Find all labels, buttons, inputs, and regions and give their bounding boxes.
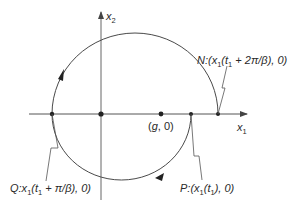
upper-trajectory-arc (52, 33, 218, 114)
phase-plane-diagram: x2 x1 N:(x1(t1 + 2π/β), 0) (g, 0) Q:x1(t… (0, 0, 301, 213)
label-P: P:(x1(t1), 0) (180, 182, 234, 199)
point-g (159, 112, 164, 117)
label-g: (g, 0) (148, 120, 174, 132)
arrow-left-icon (155, 173, 164, 181)
label-Q: Q:x1(t1 + π/β), 0) (10, 182, 91, 199)
arrow-up-icon (58, 69, 64, 81)
leader-P (191, 114, 202, 180)
leader-N (218, 66, 227, 114)
label-N: N:(x1(t1 + 2π/β), 0) (197, 54, 287, 71)
x1-axis-label: x1 (237, 121, 247, 138)
x2-axis-label: x2 (106, 10, 116, 27)
leader-Q (46, 114, 58, 181)
origin-point (98, 111, 103, 116)
